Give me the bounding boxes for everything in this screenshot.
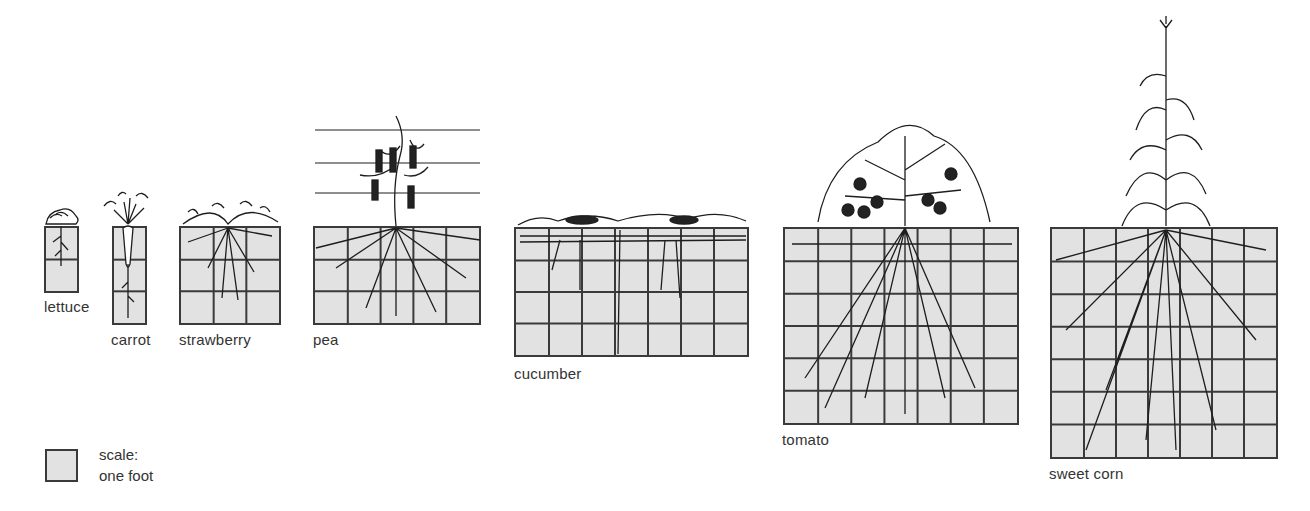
- strawberry-label: strawberry: [179, 331, 251, 348]
- strawberry-root-grid: [179, 226, 281, 325]
- scale-legend-square: [45, 449, 78, 482]
- sweet-corn-root-grid: [1050, 227, 1278, 459]
- pea-root-grid: [313, 226, 481, 325]
- cucumber-label: cucumber: [514, 365, 581, 382]
- lettuce-label: lettuce: [44, 298, 90, 315]
- tomato-label: tomato: [782, 431, 829, 448]
- scale-legend-line1: scale:: [99, 444, 153, 465]
- scale-legend-line2: one foot: [99, 465, 153, 486]
- carrot-root-grid: [112, 226, 147, 325]
- carrot-label: carrot: [111, 331, 151, 348]
- lettuce-root-grid: [44, 226, 79, 293]
- tomato-root-grid: [783, 227, 1019, 425]
- pea-trellis-icon: [315, 130, 480, 193]
- scale-legend-text: scale: one foot: [99, 444, 153, 486]
- sweet-corn-label: sweet corn: [1049, 465, 1124, 482]
- pea-label: pea: [313, 331, 339, 348]
- cucumber-root-grid: [514, 227, 749, 357]
